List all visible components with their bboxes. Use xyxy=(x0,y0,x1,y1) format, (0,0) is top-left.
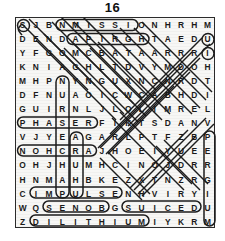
grid-cell[interactable]: I xyxy=(108,215,121,229)
grid-cell[interactable]: E xyxy=(135,145,148,159)
grid-cell[interactable]: T xyxy=(82,215,95,229)
grid-cell[interactable]: O xyxy=(188,60,201,74)
grid-cell[interactable]: E xyxy=(108,173,121,187)
grid-cell[interactable]: I xyxy=(122,159,135,173)
grid-cell[interactable]: Y xyxy=(42,131,55,145)
grid-cell[interactable]: M xyxy=(16,74,29,88)
grid-cell[interactable]: M xyxy=(135,215,148,229)
grid-cell[interactable]: H xyxy=(95,159,108,173)
grid-cell[interactable]: O xyxy=(56,46,69,60)
grid-cell[interactable]: C xyxy=(161,201,174,215)
grid-cell[interactable]: L xyxy=(56,215,69,229)
grid-cell[interactable]: R xyxy=(174,18,187,32)
grid-cell[interactable]: X xyxy=(135,173,148,187)
grid-cell[interactable]: G xyxy=(69,60,82,74)
grid-cell[interactable]: G xyxy=(16,102,29,116)
grid-cell[interactable]: M xyxy=(82,159,95,173)
grid-cell[interactable]: V xyxy=(135,60,148,74)
grid-cell[interactable]: H xyxy=(56,159,69,173)
grid-cell[interactable]: Z xyxy=(174,131,187,145)
grid-cell[interactable]: G xyxy=(82,131,95,145)
grid-cell[interactable]: I xyxy=(42,60,55,74)
grid-cell[interactable]: R xyxy=(69,145,82,159)
grid-cell[interactable]: Z xyxy=(16,215,29,229)
grid-cell[interactable]: M xyxy=(201,18,214,32)
grid-cell[interactable]: E xyxy=(108,187,121,201)
grid-cell[interactable]: R xyxy=(174,74,187,88)
grid-cell[interactable]: H xyxy=(29,116,42,130)
grid-cell[interactable]: S xyxy=(95,18,108,32)
grid-cell[interactable]: A xyxy=(69,32,82,46)
grid-cell[interactable]: T xyxy=(135,116,148,130)
grid-cell[interactable]: R xyxy=(174,46,187,60)
grid-cell[interactable]: A xyxy=(69,131,82,145)
grid-cell[interactable]: D xyxy=(188,88,201,102)
grid-cell[interactable]: D xyxy=(29,215,42,229)
grid-cell[interactable]: Y xyxy=(161,145,174,159)
grid-cell[interactable]: A xyxy=(135,46,148,60)
grid-cell[interactable]: C xyxy=(135,88,148,102)
grid-cell[interactable]: Y xyxy=(188,187,201,201)
grid-cell[interactable]: K xyxy=(122,116,135,130)
grid-cell[interactable]: E xyxy=(188,145,201,159)
grid-cell[interactable]: T xyxy=(108,60,121,74)
grid-cell[interactable]: P xyxy=(16,116,29,130)
grid-cell[interactable]: B xyxy=(161,88,174,102)
grid-cell[interactable]: F xyxy=(29,46,42,60)
grid-cell[interactable]: S xyxy=(108,18,121,32)
grid-cell[interactable]: H xyxy=(135,32,148,46)
grid-cell[interactable]: R xyxy=(188,159,201,173)
grid-cell[interactable]: L xyxy=(201,102,214,116)
grid-cell[interactable]: H xyxy=(161,18,174,32)
grid-cell[interactable]: A xyxy=(148,46,161,60)
grid-cell[interactable]: J xyxy=(42,159,55,173)
grid-cell[interactable]: J xyxy=(29,18,42,32)
grid-cell[interactable]: O xyxy=(135,18,148,32)
grid-cell[interactable]: W xyxy=(16,201,29,215)
grid-cell[interactable]: I xyxy=(95,32,108,46)
grid-cell[interactable]: Y xyxy=(148,60,161,74)
grid-cell[interactable]: I xyxy=(161,187,174,201)
grid-cell[interactable]: P xyxy=(56,187,69,201)
grid-cell[interactable]: N xyxy=(148,18,161,32)
grid-cell[interactable]: A xyxy=(174,116,187,130)
grid-cell[interactable]: O xyxy=(122,145,135,159)
grid-cell[interactable]: H xyxy=(108,145,121,159)
grid-cell[interactable]: D xyxy=(16,88,29,102)
grid-cell[interactable]: W xyxy=(122,88,135,102)
grid-cell[interactable]: C xyxy=(148,74,161,88)
grid-cell[interactable]: L xyxy=(135,102,148,116)
grid-cell[interactable]: B xyxy=(82,173,95,187)
grid-cell[interactable]: L xyxy=(95,60,108,74)
grid-cell[interactable]: U xyxy=(135,201,148,215)
grid-cell[interactable]: N xyxy=(16,145,29,159)
grid-cell[interactable]: D xyxy=(56,32,69,46)
grid-cell[interactable]: S xyxy=(42,201,55,215)
grid-cell[interactable]: A xyxy=(95,131,108,145)
grid-cell[interactable]: H xyxy=(135,187,148,201)
grid-cell[interactable]: T xyxy=(148,173,161,187)
grid-cell[interactable]: T xyxy=(122,46,135,60)
grid-cell[interactable]: G xyxy=(42,46,55,60)
grid-cell[interactable]: I xyxy=(148,215,161,229)
grid-cell[interactable]: U xyxy=(108,74,121,88)
grid-cell[interactable]: U xyxy=(29,102,42,116)
grid-cell[interactable]: S xyxy=(148,116,161,130)
grid-cell[interactable]: R xyxy=(161,46,174,60)
grid-cell[interactable]: A xyxy=(42,116,55,130)
grid-cell[interactable]: H xyxy=(174,88,187,102)
grid-cell[interactable]: E xyxy=(56,131,69,145)
grid-cell[interactable]: U xyxy=(69,159,82,173)
grid-cell[interactable]: K xyxy=(16,60,29,74)
grid-cell[interactable]: I xyxy=(122,18,135,32)
grid-cell[interactable]: B xyxy=(95,201,108,215)
grid-cell[interactable]: Q xyxy=(29,201,42,215)
grid-cell[interactable]: M xyxy=(69,18,82,32)
grid-cell[interactable]: I xyxy=(148,201,161,215)
grid-cell[interactable]: L xyxy=(122,131,135,145)
grid-cell[interactable]: E xyxy=(56,201,69,215)
grid-cell[interactable]: D xyxy=(161,116,174,130)
grid-cell[interactable]: G xyxy=(122,32,135,46)
grid-cell[interactable]: O xyxy=(29,145,42,159)
grid-cell[interactable]: B xyxy=(42,18,55,32)
